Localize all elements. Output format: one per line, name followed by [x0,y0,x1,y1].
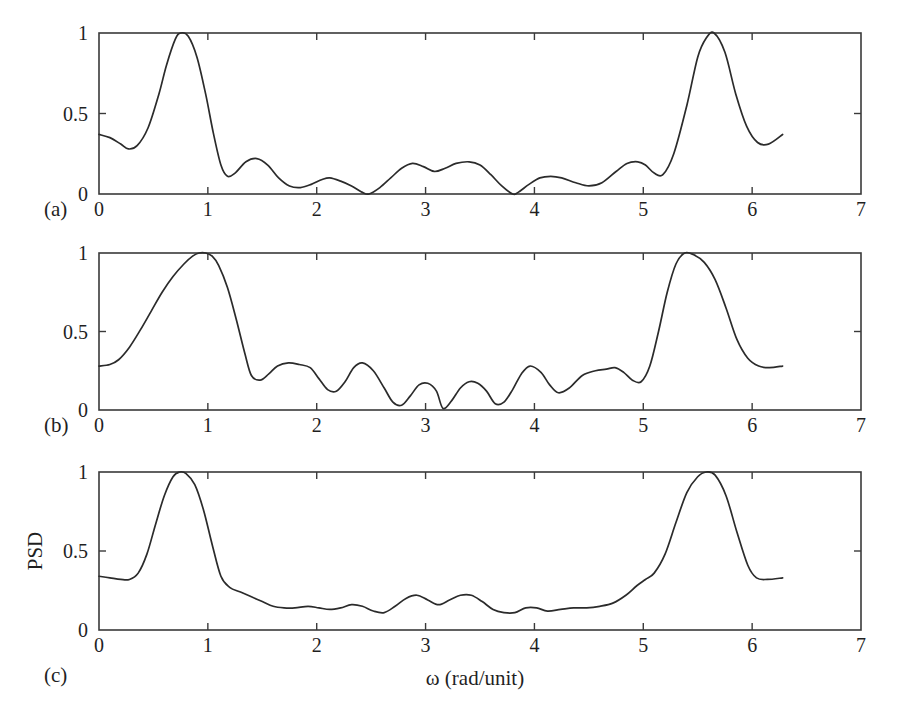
figure-background [0,0,898,715]
x-tick-label: 2 [312,634,322,656]
x-tick-label: 5 [638,414,648,436]
x-tick-label: 0 [94,198,104,220]
psd-figure: 0123456700.51(a)0123456700.51(b)01234567… [0,0,898,715]
x-tick-label: 4 [529,634,539,656]
x-tick-label: 3 [421,198,431,220]
x-tick-label: 4 [529,198,539,220]
y-tick-label: 1 [78,242,88,264]
x-tick-label: 0 [94,634,104,656]
x-tick-label: 2 [312,414,322,436]
x-tick-label: 1 [203,198,213,220]
y-tick-label: 0.5 [63,321,88,343]
x-tick-label: 1 [203,634,213,656]
y-tick-label: 1 [78,22,88,44]
panel-label-a: (a) [44,197,67,221]
x-axis-title: ω (rad/unit) [426,666,524,690]
x-tick-label: 2 [312,198,322,220]
x-tick-label: 6 [747,634,757,656]
x-tick-label: 1 [203,414,213,436]
y-tick-label: 0 [78,399,88,421]
y-tick-label: 0.5 [63,103,88,125]
x-tick-label: 7 [856,634,866,656]
x-tick-label: 7 [856,198,866,220]
x-tick-label: 4 [529,414,539,436]
x-tick-label: 5 [638,634,648,656]
x-tick-label: 6 [747,414,757,436]
x-tick-label: 7 [856,414,866,436]
y-axis-title: PSD [23,532,47,571]
y-tick-label: 0.5 [63,540,88,562]
x-tick-label: 3 [421,414,431,436]
y-tick-label: 0 [78,619,88,641]
x-tick-label: 6 [747,198,757,220]
x-tick-label: 5 [638,198,648,220]
x-tick-label: 3 [421,634,431,656]
x-tick-label: 0 [94,414,104,436]
y-tick-label: 1 [78,461,88,483]
y-tick-label: 0 [78,183,88,205]
panel-label-c: (c) [44,663,67,687]
panel-label-b: (b) [44,413,69,437]
